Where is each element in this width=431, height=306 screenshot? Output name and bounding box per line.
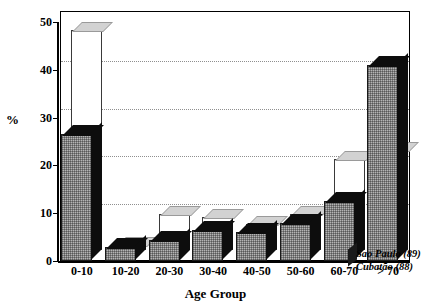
bar-group [104, 11, 148, 261]
x-tick-label: 40-50 [235, 264, 279, 279]
legend-entry-cubatao: Cubatão (88) [356, 260, 421, 273]
x-tick-label: 10-20 [104, 264, 148, 279]
bar-group [191, 11, 235, 261]
y-tick-mark [53, 165, 58, 166]
y-tick-label: 30 [26, 113, 52, 123]
y-tick-label: 40 [26, 65, 52, 75]
y-axis-title: % [6, 112, 19, 128]
bar-sao-paulo [61, 134, 92, 261]
x-tick-label: 20-30 [148, 264, 192, 279]
bar-sao-paulo [192, 230, 223, 261]
y-axis-line [57, 22, 59, 262]
bar-sao-paulo [236, 232, 267, 261]
bar-sao-paulo [105, 247, 136, 261]
bar-group [279, 11, 323, 261]
y-tick-mark [53, 213, 58, 214]
y-tick-label: 10 [26, 208, 52, 218]
bar-group [366, 11, 410, 261]
x-tick-label: 50-60 [279, 264, 323, 279]
y-tick-mark [53, 22, 58, 23]
bar-group [60, 11, 104, 261]
bars-layer [60, 11, 410, 261]
y-tick-label: 20 [26, 160, 52, 170]
y-tick-mark [53, 118, 58, 119]
x-tick-label: 30-40 [191, 264, 235, 279]
y-tick-mark [53, 261, 58, 262]
y-axis-ticks: 01020304050 [26, 0, 52, 306]
bar-sao-paulo [280, 223, 311, 261]
x-tick-label: 0-10 [60, 264, 104, 279]
bar-group [235, 11, 279, 261]
bar-group [148, 11, 192, 261]
y-tick-label: 50 [26, 17, 52, 27]
y-tick-label: 0 [26, 256, 52, 266]
x-axis-title: Age Group [0, 286, 431, 302]
bar-sao-paulo [367, 65, 398, 261]
bar-group [323, 11, 367, 261]
bar-sao-paulo [149, 240, 180, 262]
legend: Sao Paulo (89) Cubatão (88) [356, 247, 421, 273]
y-tick-mark [53, 70, 58, 71]
bar-sao-paulo-side [91, 122, 102, 260]
legend-entry-sao-paulo: Sao Paulo (89) [356, 247, 421, 260]
bar-sao-paulo-side [397, 53, 408, 260]
bar-chart: % 01020304050 0-1010-2020-3030-4040-5050… [0, 0, 431, 306]
